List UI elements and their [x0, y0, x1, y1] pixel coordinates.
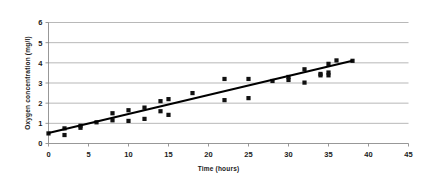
chart-canvas: 0123456 051015202530354045 Oxygen concen…	[0, 0, 431, 187]
y-tick-label-1: 1	[38, 119, 42, 128]
data-marker	[222, 77, 226, 81]
data-marker	[246, 77, 250, 81]
x-tick-label-40: 40	[364, 150, 372, 159]
y-tick-label-0: 0	[38, 139, 42, 148]
data-marker	[126, 108, 130, 112]
x-tick-label-10: 10	[124, 150, 132, 159]
x-tick-label-45: 45	[404, 150, 412, 159]
data-marker	[190, 91, 194, 95]
data-marker	[302, 80, 306, 84]
data-marker	[158, 109, 162, 113]
data-marker	[302, 67, 306, 71]
x-tick-label-25: 25	[244, 150, 252, 159]
data-marker	[222, 98, 226, 102]
y-axis-title: Oxygen concentration (mg/l)	[24, 36, 32, 130]
data-marker	[166, 97, 170, 101]
gridlines-group	[49, 23, 409, 124]
y-tick-label-3: 3	[38, 79, 42, 88]
data-marker	[334, 58, 338, 62]
data-marker	[126, 119, 130, 123]
data-marker	[326, 73, 330, 77]
data-marker	[246, 96, 250, 100]
y-tick-label-2: 2	[38, 99, 42, 108]
data-marker	[286, 78, 290, 82]
y-tick-label-6: 6	[38, 18, 42, 27]
x-tickmarks-group	[49, 144, 409, 147]
y-tick-label-4: 4	[38, 59, 43, 68]
oxygen-concentration-chart: 0123456 051015202530354045 Oxygen concen…	[0, 0, 431, 187]
y-tickmarks-group	[46, 23, 49, 144]
data-marker	[110, 111, 114, 115]
y-tick-label-5: 5	[38, 39, 42, 48]
y-tick-labels-group: 0123456	[38, 18, 43, 148]
x-axis-title: Time (hours)	[198, 165, 240, 173]
data-marker	[166, 113, 170, 117]
trend-line	[49, 61, 353, 133]
x-tick-label-35: 35	[324, 150, 332, 159]
x-tick-label-5: 5	[86, 150, 90, 159]
x-tick-label-30: 30	[284, 150, 292, 159]
data-marker	[318, 73, 322, 77]
data-marker	[142, 117, 146, 121]
x-tick-labels-group: 051015202530354045	[46, 150, 412, 159]
x-tick-label-15: 15	[164, 150, 172, 159]
data-marker	[62, 133, 66, 137]
x-tick-label-20: 20	[204, 150, 212, 159]
x-tick-label-0: 0	[46, 150, 50, 159]
data-marker	[158, 99, 162, 103]
